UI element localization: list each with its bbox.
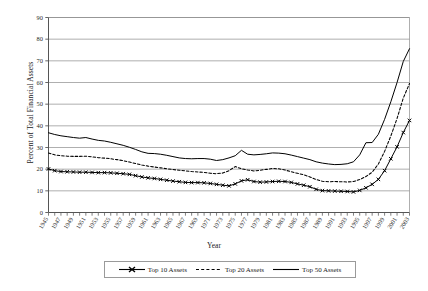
svg-text:10: 10 bbox=[37, 187, 43, 194]
y-axis-tick-labels: 0102030405060708090 bbox=[37, 14, 43, 216]
svg-text:1985: 1985 bbox=[286, 216, 298, 230]
legend-swatch-top-10-icon bbox=[119, 265, 145, 274]
svg-text:1977: 1977 bbox=[236, 216, 248, 230]
svg-text:1989: 1989 bbox=[311, 216, 323, 230]
svg-text:1973: 1973 bbox=[211, 216, 223, 230]
svg-text:1955: 1955 bbox=[99, 216, 111, 230]
svg-text:30: 30 bbox=[37, 144, 43, 151]
svg-text:1981: 1981 bbox=[261, 216, 273, 230]
legend-label-top-10: Top 10 Assets bbox=[148, 266, 187, 274]
svg-text:1961: 1961 bbox=[136, 216, 148, 230]
svg-text:1997: 1997 bbox=[361, 216, 373, 230]
svg-text:50: 50 bbox=[37, 100, 43, 107]
svg-text:1949: 1949 bbox=[62, 216, 74, 230]
gridlines bbox=[49, 18, 410, 191]
svg-text:1965: 1965 bbox=[161, 216, 173, 230]
series-markers-top-10-assets bbox=[47, 119, 412, 194]
chart-legend: Top 10 Assets Top 20 Assets Top 50 Asset… bbox=[104, 261, 356, 278]
svg-text:1967: 1967 bbox=[174, 216, 186, 230]
legend-label-top-20: Top 20 Assets bbox=[225, 266, 264, 274]
svg-text:1945: 1945 bbox=[37, 216, 49, 230]
legend-label-top-50: Top 50 Assets bbox=[302, 266, 341, 274]
svg-text:1947: 1947 bbox=[49, 216, 61, 230]
svg-text:1963: 1963 bbox=[149, 216, 161, 230]
svg-text:2001: 2001 bbox=[385, 216, 397, 230]
svg-text:1969: 1969 bbox=[186, 216, 198, 230]
svg-text:1953: 1953 bbox=[87, 216, 99, 230]
svg-text:1987: 1987 bbox=[298, 216, 310, 230]
svg-text:1999: 1999 bbox=[373, 216, 385, 230]
legend-item-top-20: Top 20 Assets bbox=[196, 265, 264, 274]
svg-text:1995: 1995 bbox=[348, 216, 360, 230]
svg-text:0: 0 bbox=[40, 209, 43, 216]
svg-text:1975: 1975 bbox=[224, 216, 236, 230]
x-axis-title: Year bbox=[0, 241, 428, 250]
data-series bbox=[47, 49, 412, 194]
svg-text:70: 70 bbox=[37, 57, 43, 64]
svg-text:1957: 1957 bbox=[112, 216, 124, 230]
svg-text:1979: 1979 bbox=[248, 216, 260, 230]
svg-text:1971: 1971 bbox=[199, 216, 211, 230]
svg-text:1991: 1991 bbox=[323, 216, 335, 230]
legend-item-top-50: Top 50 Assets bbox=[273, 265, 341, 274]
chart-container: 0102030405060708090 19451947194919511953… bbox=[0, 0, 428, 291]
legend-item-top-10: Top 10 Assets bbox=[119, 265, 187, 274]
x-axis-tick-labels: 1945194719491951195319551957195919611963… bbox=[37, 216, 410, 230]
legend-swatch-top-50-icon bbox=[273, 265, 299, 274]
y-axis-title: Percent of Total Financial Assets bbox=[26, 18, 35, 208]
svg-text:1951: 1951 bbox=[74, 216, 86, 230]
svg-text:1983: 1983 bbox=[273, 216, 285, 230]
svg-text:1959: 1959 bbox=[124, 216, 136, 230]
svg-text:90: 90 bbox=[37, 14, 43, 21]
svg-text:60: 60 bbox=[37, 79, 43, 86]
svg-text:40: 40 bbox=[37, 122, 43, 129]
svg-text:2003: 2003 bbox=[398, 216, 410, 230]
svg-text:1993: 1993 bbox=[336, 216, 348, 230]
plot-frame bbox=[49, 18, 410, 213]
svg-text:20: 20 bbox=[37, 165, 43, 172]
svg-text:80: 80 bbox=[37, 35, 43, 42]
series-line-top-20-assets bbox=[49, 84, 410, 182]
legend-swatch-top-20-icon bbox=[196, 265, 222, 274]
